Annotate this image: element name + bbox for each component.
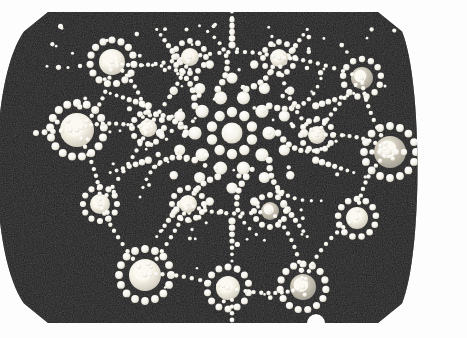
filler-dot: [176, 72, 180, 76]
rosette-top-left-petal-dot: [108, 36, 115, 43]
filler-dot: [165, 138, 168, 141]
mandala-swirl-dot: [310, 199, 313, 202]
filler-dot: [180, 109, 183, 112]
filler-dot: [280, 94, 285, 99]
connector-dot: [319, 126, 323, 130]
rosette-top-right-petal-dot: [262, 63, 268, 69]
mandala-swirl-dot: [198, 24, 201, 27]
connector-dot: [282, 225, 286, 229]
filler-dot: [134, 32, 139, 37]
connector-dot: [258, 51, 262, 55]
filler-dot: [322, 37, 325, 40]
mandala-swirl-dot: [214, 173, 221, 180]
mandala-swirl-dot: [214, 86, 221, 93]
connector-dot: [133, 84, 137, 88]
connector-dot: [120, 69, 124, 73]
rosette-inner-left-petal-dot: [159, 133, 165, 139]
rosette-top-mid-petal-dot: [195, 68, 201, 74]
mandala-swirl-dot: [242, 221, 246, 225]
connector-dot: [301, 58, 305, 62]
connector-dot: [98, 197, 102, 201]
rosette-lower-mid-left-petal-dot: [185, 185, 191, 191]
rosette-left-petal-dot: [99, 133, 107, 141]
rosette-upper-right-petal-dot: [378, 73, 384, 79]
rosette-bottom-right-petal-dot: [313, 302, 320, 309]
filler-dot: [261, 107, 266, 112]
connector-dot: [160, 272, 164, 276]
connector-dot: [115, 64, 119, 68]
rosette-bottom-right-petal-dot: [278, 276, 285, 283]
rosette-top-mid-petal-dot: [187, 38, 193, 44]
rosette-bottom-right-petal-dot: [322, 286, 329, 293]
filler-dot: [83, 97, 87, 101]
connector-dot: [355, 216, 359, 220]
filler-dot: [291, 124, 296, 129]
filler-dot: [310, 90, 313, 93]
rosette-left-petal-dot: [97, 114, 105, 122]
rosette-upper-right-core-highlight: [354, 70, 366, 82]
connector-dot: [359, 193, 363, 197]
connector-dot: [100, 96, 104, 100]
rosette-lower-mid-right-petal-dot: [259, 194, 265, 200]
mandala-spoke-dot: [166, 43, 171, 48]
rosette-lower-mid-right-petal-dot: [267, 192, 273, 198]
mandala-spoke-dot: [145, 157, 152, 164]
filler-dot: [56, 65, 61, 70]
mandala-swirl-dot: [271, 179, 277, 185]
filler-dot: [157, 162, 161, 166]
connector-dot: [354, 83, 358, 87]
rosette-top-mid-petal-dot: [201, 62, 207, 68]
rosette-lower-left-petal-dot: [82, 209, 88, 215]
mandala-swirl-dot: [234, 201, 239, 206]
connector-dot: [110, 60, 114, 64]
connector-dot: [370, 169, 374, 173]
rosette-top-right-petal-dot: [284, 69, 290, 75]
connector-dot: [266, 291, 270, 295]
mandala-swirl-dot: [301, 101, 306, 106]
filler-dot: [196, 93, 201, 98]
rosette-left-petal-dot: [68, 153, 76, 161]
connector-dot: [216, 283, 220, 287]
rosette-bottom-left-petal-dot: [141, 297, 149, 305]
mandala-swirl-dot: [307, 97, 312, 102]
connector-dot: [319, 248, 323, 252]
rosette-right-petal-dot: [396, 124, 404, 132]
connector-dot: [121, 122, 125, 126]
mandala-ring1-dot: [207, 134, 217, 144]
mandala-spoke-dot: [297, 224, 302, 229]
filler-dot: [161, 229, 164, 232]
mandala-swirl-dot: [219, 79, 225, 85]
rim-accent-dot: [230, 298, 234, 302]
mandala-spoke-dot: [133, 161, 139, 167]
rim-accent-dot: [230, 305, 234, 309]
rosette-top-left-petal-dot: [95, 76, 102, 83]
connector-dot: [271, 54, 275, 58]
mandala-swirl-dot: [266, 103, 273, 110]
connector-dot: [198, 53, 202, 57]
rosette-bottom-left-petal-dot: [123, 253, 131, 261]
connector-dot: [138, 142, 142, 146]
filler-dot: [170, 115, 174, 119]
rosette-bottom-right-petal-dot: [321, 276, 328, 283]
connector-dot: [90, 114, 94, 118]
rosette-lower-mid-left-petal-dot: [177, 187, 183, 193]
connector-dot: [208, 52, 212, 56]
connector-dot: [85, 119, 89, 123]
filler-dot: [174, 209, 178, 213]
filler-dot: [156, 152, 161, 157]
rosette-right-petal-dot: [376, 172, 384, 180]
mandala-ring4-dot: [286, 171, 294, 179]
rosette-inner-right-petal-dot: [300, 140, 306, 146]
rim-accent-dot: [67, 127, 72, 132]
connector-dot: [324, 242, 328, 246]
connector-dot: [139, 63, 143, 67]
filler-dot: [181, 85, 184, 88]
rosette-upper-right-petal-dot: [359, 56, 365, 62]
mandala-swirl-dot: [248, 227, 252, 231]
connector-dot: [226, 50, 230, 54]
connector-dot: [304, 277, 308, 281]
filler-dot: [196, 267, 199, 270]
rosette-bottom-left-petal-dot: [117, 281, 125, 289]
filler-dot: [170, 129, 174, 133]
connector-dot: [79, 126, 83, 130]
